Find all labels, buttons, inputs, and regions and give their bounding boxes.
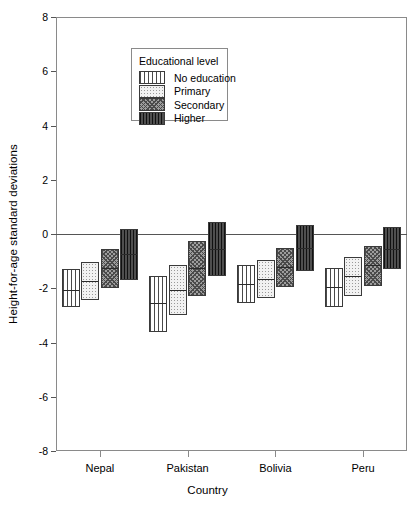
bar-nepal-secondary — [101, 249, 119, 288]
x-tick-mark — [100, 451, 101, 457]
y-tick-mark — [51, 397, 56, 398]
y-axis-title: Height-for-age standard deviations — [7, 144, 19, 324]
median-line — [365, 265, 381, 266]
x-tick-mark — [275, 451, 276, 457]
bar-peru-no-education — [325, 268, 343, 307]
median-line — [170, 290, 186, 291]
median-line — [277, 267, 293, 268]
median-line — [297, 248, 313, 249]
bar-pakistan-primary — [169, 265, 187, 315]
median-line — [258, 279, 274, 280]
legend: Educational level No educationPrimarySec… — [131, 48, 228, 121]
median-line — [150, 303, 166, 304]
bar-nepal-higher — [120, 229, 138, 281]
x-tick-mark — [363, 451, 364, 457]
y-tick-label: 8 — [4, 11, 48, 23]
y-tick-label: 6 — [4, 65, 48, 77]
x-tick-mark — [188, 451, 189, 457]
y-tick-mark — [51, 343, 56, 344]
median-line — [189, 268, 205, 269]
y-tick-label: -6 — [4, 391, 48, 403]
bar-pakistan-secondary — [188, 241, 206, 297]
y-tick-label: -4 — [4, 337, 48, 349]
bar-pakistan-no-education — [149, 276, 167, 332]
legend-entry-higher: Higher — [139, 112, 205, 125]
legend-swatch — [139, 98, 165, 111]
zero-reference-line — [56, 234, 407, 235]
median-line — [102, 268, 118, 269]
median-line — [82, 281, 98, 282]
bar-peru-primary — [344, 257, 362, 296]
bar-peru-secondary — [364, 246, 382, 285]
median-line — [384, 249, 400, 250]
legend-entry-primary: Primary — [139, 85, 210, 98]
x-tick-label-nepal: Nepal — [86, 462, 115, 474]
legend-entry-secondary: Secondary — [139, 98, 224, 111]
legend-label: Primary — [174, 85, 210, 97]
median-line — [326, 287, 342, 288]
y-tick-mark — [51, 451, 56, 452]
bar-bolivia-secondary — [276, 248, 294, 287]
x-axis-title: Country — [0, 484, 415, 496]
median-line — [121, 254, 137, 255]
y-tick-mark — [51, 288, 56, 289]
y-tick-mark — [51, 234, 56, 235]
legend-label: Secondary — [174, 99, 224, 111]
y-tick-mark — [51, 17, 56, 18]
median-line — [63, 290, 79, 291]
bar-bolivia-higher — [296, 225, 314, 271]
legend-swatch — [139, 85, 165, 98]
y-tick-label: 4 — [4, 120, 48, 132]
legend-entry-no-education: No education — [139, 71, 236, 84]
median-line — [209, 249, 225, 250]
bar-bolivia-no-education — [237, 265, 255, 303]
x-tick-label-peru: Peru — [352, 462, 375, 474]
x-tick-label-pakistan: Pakistan — [167, 462, 209, 474]
legend-label: No education — [174, 72, 236, 84]
y-tick-label: -8 — [4, 445, 48, 457]
bar-nepal-primary — [81, 262, 99, 300]
legend-title: Educational level — [139, 55, 218, 67]
bar-nepal-no-education — [62, 269, 80, 307]
bar-pakistan-higher — [208, 222, 226, 276]
median-line — [345, 276, 361, 277]
y-tick-mark — [51, 126, 56, 127]
legend-label: Higher — [174, 112, 205, 124]
y-tick-mark — [51, 71, 56, 72]
legend-swatch — [139, 112, 165, 125]
median-line — [238, 284, 254, 285]
bar-peru-higher — [383, 227, 401, 269]
chart-root: 86420-2-4-6-8 NepalPakistanBoliviaPeru H… — [0, 0, 415, 509]
y-tick-mark — [51, 180, 56, 181]
legend-swatch — [139, 71, 165, 84]
bar-bolivia-primary — [257, 260, 275, 298]
x-tick-label-bolivia: Bolivia — [259, 462, 291, 474]
